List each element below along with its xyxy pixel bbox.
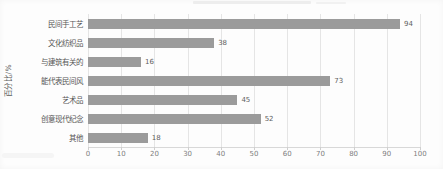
category-label: 其他 (0, 132, 88, 143)
photo-smudge-artifact (2, 153, 54, 158)
bar-row: 民间手工艺94 (0, 14, 420, 33)
bar-row: 其他18 (0, 128, 420, 147)
bar (88, 38, 214, 48)
bar-row: 文化纺织品38 (0, 33, 420, 52)
bar-rows: 民间手工艺94文化纺织品38与建筑有关的16能代表民间风73艺术品45创意现代纪… (0, 14, 420, 147)
x-axis-tick-label: 60 (283, 150, 292, 158)
x-axis-tick-label: 80 (349, 150, 358, 158)
bar-track: 16 (88, 52, 420, 71)
x-axis-tick-label: 30 (183, 150, 192, 158)
category-label: 文化纺织品 (0, 37, 88, 48)
value-label: 52 (265, 115, 274, 123)
gridline (420, 14, 421, 147)
bar-track: 38 (88, 33, 420, 52)
bar (88, 95, 237, 105)
x-axis-tick-label: 50 (250, 150, 259, 158)
value-label: 16 (145, 58, 154, 66)
x-axis-tick-label: 10 (117, 150, 126, 158)
value-label: 73 (334, 77, 343, 85)
value-label: 45 (241, 96, 250, 104)
bar-row: 艺术品45 (0, 90, 420, 109)
x-axis-tick-labels: 0102030405060708090100 (88, 150, 420, 162)
bar (88, 57, 141, 67)
bar-track: 94 (88, 14, 420, 33)
bar-row: 与建筑有关的16 (0, 52, 420, 71)
value-label: 94 (404, 20, 413, 28)
bar-chart: 百分比/% 民间手工艺94文化纺织品38与建筑有关的16能代表民间风73艺术品4… (0, 0, 443, 169)
bar-track: 18 (88, 128, 420, 147)
category-label: 能代表民间风 (0, 75, 88, 86)
x-axis-tick-label: 90 (382, 150, 391, 158)
category-label: 与建筑有关的 (0, 56, 88, 67)
bar-track: 73 (88, 71, 420, 90)
bar (88, 133, 148, 143)
bar-row: 能代表民间风73 (0, 71, 420, 90)
cropped-title-artifact (193, 1, 311, 4)
x-axis-tick-label: 0 (86, 150, 90, 158)
bar-track: 45 (88, 90, 420, 109)
bar (88, 76, 330, 86)
cropped-title-artifact (316, 2, 346, 4)
bar-track: 52 (88, 109, 420, 128)
bar (88, 19, 400, 29)
category-label: 创意现代纪念 (0, 113, 88, 124)
value-label: 18 (152, 134, 161, 142)
bar-row: 创意现代纪念52 (0, 109, 420, 128)
x-axis-tick-label: 100 (413, 150, 426, 158)
category-label: 民间手工艺 (0, 18, 88, 29)
x-axis-tick-label: 70 (316, 150, 325, 158)
x-axis-tick-label: 40 (216, 150, 225, 158)
category-label: 艺术品 (0, 94, 88, 105)
x-axis-tick-label: 20 (150, 150, 159, 158)
value-label: 38 (218, 39, 227, 47)
bar (88, 114, 261, 124)
